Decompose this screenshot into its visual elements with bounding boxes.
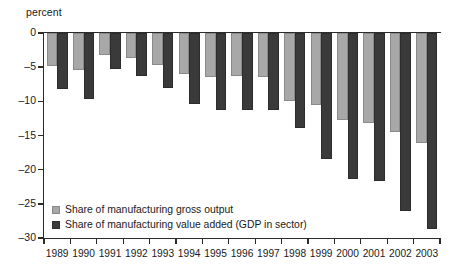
bar <box>348 33 359 179</box>
legend-item: Share of manufacturing value added (GDP … <box>52 218 307 233</box>
y-tick-mark <box>38 169 43 170</box>
bar <box>258 33 269 77</box>
bar <box>231 33 242 76</box>
legend-label: Share of manufacturing value added (GDP … <box>65 218 307 233</box>
bar <box>416 33 427 143</box>
bar-chart: percent 0–5–10–15–20–25–30 1989199019911… <box>0 0 450 273</box>
bar <box>311 33 322 105</box>
y-tick-mark <box>38 135 43 136</box>
bar <box>126 33 137 58</box>
y-tick-label: –10 <box>0 94 36 106</box>
x-tick-mark <box>228 239 229 244</box>
bar <box>268 33 279 110</box>
chart-legend: Share of manufacturing gross output Shar… <box>52 203 307 232</box>
y-tick-label: –5 <box>0 60 36 72</box>
x-tick-mark <box>360 239 361 244</box>
x-tick-mark <box>175 239 176 244</box>
bar <box>179 33 190 74</box>
bar <box>189 33 200 104</box>
y-axis-unit-label: percent <box>26 6 62 18</box>
bar <box>242 33 253 110</box>
bar <box>47 33 58 66</box>
bar <box>400 33 411 211</box>
y-tick-mark <box>38 203 43 204</box>
x-tick-mark <box>202 239 203 244</box>
x-axis-line <box>43 238 441 239</box>
x-tick-label: 2003 <box>409 248 445 259</box>
y-tick-mark <box>38 101 43 102</box>
bar <box>374 33 385 181</box>
x-tick-mark <box>281 239 282 244</box>
dark-swatch-icon <box>52 221 60 229</box>
bar <box>284 33 295 101</box>
x-tick-mark <box>123 239 124 244</box>
y-tick-label: –30 <box>0 231 36 243</box>
y-tick-label: –15 <box>0 129 36 141</box>
legend-label: Share of manufacturing gross output <box>65 203 233 218</box>
bar <box>363 33 374 123</box>
bar <box>205 33 216 77</box>
y-tick-label: 0 <box>0 26 36 38</box>
bar <box>136 33 147 76</box>
x-tick-mark <box>307 239 308 244</box>
bar <box>163 33 174 88</box>
bar <box>84 33 95 99</box>
bar <box>99 33 110 55</box>
bar <box>110 33 121 69</box>
x-tick-mark <box>96 239 97 244</box>
bar <box>427 33 438 229</box>
bar <box>321 33 332 159</box>
x-tick-mark <box>439 239 440 244</box>
x-tick-mark <box>43 239 44 244</box>
bar <box>390 33 401 132</box>
x-tick-mark <box>149 239 150 244</box>
x-tick-mark <box>387 239 388 244</box>
y-tick-mark <box>38 32 43 33</box>
x-tick-mark <box>334 239 335 244</box>
y-tick-mark <box>38 237 43 238</box>
y-tick-label: –25 <box>0 197 36 209</box>
bar <box>337 33 348 120</box>
y-axis-line <box>43 32 44 239</box>
x-tick-mark <box>413 239 414 244</box>
bar <box>152 33 163 65</box>
x-tick-mark <box>70 239 71 244</box>
y-tick-mark <box>38 66 43 67</box>
legend-item: Share of manufacturing gross output <box>52 203 307 218</box>
light-swatch-icon <box>52 206 60 214</box>
bar <box>295 33 306 128</box>
bar <box>216 33 227 110</box>
x-tick-mark <box>255 239 256 244</box>
bar <box>73 33 84 70</box>
y-tick-label: –20 <box>0 163 36 175</box>
bar <box>57 33 68 89</box>
